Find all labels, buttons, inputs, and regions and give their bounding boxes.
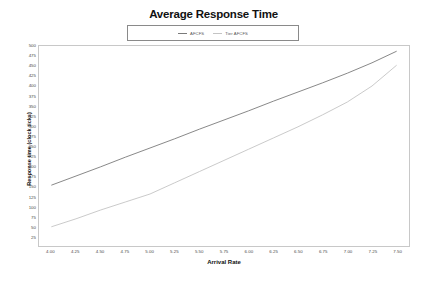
x-tick-label: 5.50 — [195, 249, 204, 254]
x-tick-label: 7.50 — [393, 249, 402, 254]
x-tick-label: 5.00 — [145, 249, 154, 254]
series-line-afcfs — [51, 51, 396, 185]
x-tick-label: 4.75 — [121, 249, 130, 254]
x-tick-label: 5.25 — [170, 249, 179, 254]
chart-legend: AFCFS Tier AFCFS — [127, 25, 299, 41]
y-axis-tick-labels: 5004754504254003753503253002752502252001… — [14, 45, 36, 247]
x-tick-label: 4.50 — [96, 249, 105, 254]
plot-svg — [39, 46, 409, 246]
legend-label-tier-afcfs: Tier AFCFS — [225, 31, 248, 36]
y-axis-title: Response time (clock ticks) — [26, 69, 32, 229]
series-line-tier-afcfs — [51, 65, 396, 227]
chart-figure: Average Response Time AFCFS Tier AFCFS 5… — [0, 0, 427, 288]
x-tick-label: 4.25 — [71, 249, 80, 254]
x-tick-label: 4.00 — [46, 249, 55, 254]
legend-entry-tier-afcfs: Tier AFCFS — [213, 31, 248, 36]
x-tick-label: 7.25 — [369, 249, 378, 254]
x-axis-title: Arrival Rate — [38, 259, 410, 265]
x-tick-label: 7.00 — [344, 249, 353, 254]
x-axis-tick-labels: 4.004.254.504.755.005.255.505.756.006.25… — [38, 249, 410, 259]
x-tick-label: 6.50 — [294, 249, 303, 254]
y-tick-label: 450 — [29, 63, 36, 68]
legend-label-afcfs: AFCFS — [190, 31, 204, 36]
plot-area — [38, 45, 410, 247]
legend-swatch-afcfs — [178, 33, 187, 34]
x-tick-label: 6.75 — [319, 249, 328, 254]
y-tick-label: 25 — [31, 234, 36, 239]
series-layer — [51, 51, 396, 227]
chart-title: Average Response Time — [0, 8, 427, 20]
x-tick-label: 5.75 — [220, 249, 229, 254]
legend-swatch-tier-afcfs — [213, 33, 222, 34]
y-tick-label: 475 — [29, 53, 36, 58]
y-tick-label: 500 — [29, 43, 36, 48]
x-tick-label: 6.00 — [245, 249, 254, 254]
x-tick-label: 6.25 — [269, 249, 278, 254]
legend-entry-afcfs: AFCFS — [178, 31, 204, 36]
